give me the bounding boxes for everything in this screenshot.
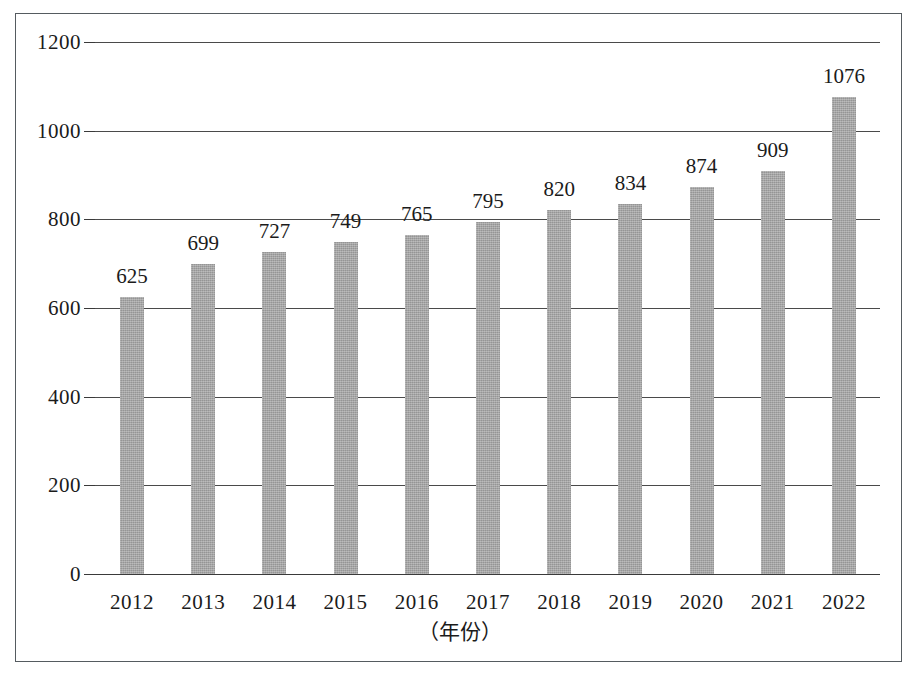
y-axis-tick-label: 800 bbox=[0, 209, 81, 230]
bar-2015[interactable] bbox=[334, 242, 358, 574]
y-axis-tick-label: 200 bbox=[0, 475, 81, 496]
y-axis-tick-label: 600 bbox=[0, 298, 81, 319]
y-axis-tick-label: 1000 bbox=[0, 121, 81, 142]
bar-2022[interactable] bbox=[832, 97, 856, 574]
bar-2016[interactable] bbox=[405, 235, 429, 574]
y-tick-mark-1200 bbox=[84, 42, 95, 43]
y-axis-tick-label: 1200 bbox=[0, 32, 81, 53]
y-tick-mark-200 bbox=[84, 485, 95, 486]
chart-page: 0200400600800100012006252012699201372720… bbox=[0, 0, 919, 680]
y-tick-mark-1000 bbox=[84, 131, 95, 132]
bar-value-label-2022: 1076 bbox=[799, 66, 889, 87]
y-tick-mark-400 bbox=[84, 397, 95, 398]
bar-2019[interactable] bbox=[618, 204, 642, 574]
y-tick-mark-600 bbox=[84, 308, 95, 309]
bar-2018[interactable] bbox=[547, 210, 571, 574]
bar-2017[interactable] bbox=[476, 222, 500, 574]
y-tick-mark-0 bbox=[84, 574, 95, 575]
gridline-1200 bbox=[93, 42, 880, 43]
x-axis-tick-label-2022: 2022 bbox=[799, 592, 889, 613]
bar-value-label-2012: 625 bbox=[87, 266, 177, 287]
gridline-0 bbox=[93, 574, 880, 575]
bar-2021[interactable] bbox=[761, 171, 785, 574]
y-axis-tick-label: 0 bbox=[0, 564, 81, 585]
x-axis-title: （年份） bbox=[0, 622, 919, 643]
y-tick-mark-800 bbox=[84, 219, 95, 220]
gridline-1000 bbox=[93, 131, 880, 132]
plot-area: 0200400600800100012006252012699201372720… bbox=[0, 0, 919, 680]
bar-2013[interactable] bbox=[191, 264, 215, 574]
bar-2014[interactable] bbox=[262, 252, 286, 574]
bar-2020[interactable] bbox=[690, 187, 714, 574]
y-axis-tick-label: 400 bbox=[0, 387, 81, 408]
bar-2012[interactable] bbox=[120, 297, 144, 574]
bar-value-label-2021: 909 bbox=[728, 140, 818, 161]
